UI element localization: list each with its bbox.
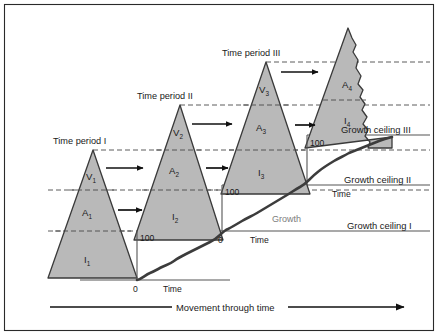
growth-ceiling-diagram: Time period I V1 A1 I1 Time period II V2… xyxy=(0,0,438,335)
axis-3-hundred: 100 xyxy=(225,187,240,197)
period-2-title: Time period II xyxy=(137,91,193,101)
axis-4-time: Time xyxy=(332,189,351,199)
axis-3-zero: 0 xyxy=(218,235,223,245)
growth-ceiling-3-label: Growth ceiling III xyxy=(341,124,411,135)
axis-2-time: Time xyxy=(163,284,182,294)
figure-root: Time period I V1 A1 I1 Time period II V2… xyxy=(0,0,438,335)
period-1-title: Time period I xyxy=(53,136,106,146)
growth-ceiling-2-label: Growth ceiling II xyxy=(344,174,411,185)
axis-4-hundred: 100 xyxy=(310,138,325,148)
movement-through-time-label: Movement through time xyxy=(176,302,274,313)
growth-curve-label: Growth xyxy=(272,214,301,224)
axis-3-time: Time xyxy=(250,235,269,245)
axis-2-hundred: 100 xyxy=(140,233,155,243)
growth-ceiling-1-label: Growth ceiling I xyxy=(347,220,412,231)
period-3-title: Time period III xyxy=(222,48,280,58)
axis-2-zero: 0 xyxy=(133,284,138,294)
